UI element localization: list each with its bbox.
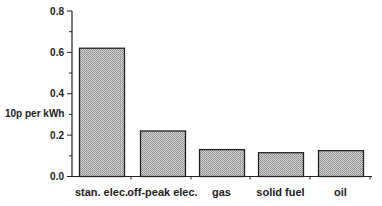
x-tick-label: oil bbox=[334, 186, 347, 198]
y-tick-label: 0.0 bbox=[50, 171, 64, 182]
bar-stan-elec- bbox=[80, 48, 125, 176]
y-tick-label: 0.8 bbox=[50, 6, 64, 17]
x-tick-label: gas bbox=[212, 186, 231, 198]
x-tick-label: stan. elec. bbox=[75, 186, 128, 198]
bar-oil bbox=[319, 151, 364, 177]
y-tick-label: 0.4 bbox=[50, 88, 64, 99]
y-tick-label: 0.2 bbox=[50, 130, 64, 141]
bar-chart: stan. elec.off-peak elec.gassolid fueloi… bbox=[0, 0, 382, 206]
bar-gas bbox=[200, 150, 245, 177]
bar-off-peak-elec- bbox=[141, 131, 186, 177]
x-tick-label: solid fuel bbox=[256, 186, 304, 198]
y-tick-label: 0.6 bbox=[50, 47, 64, 58]
x-tick-label: off-peak elec. bbox=[127, 186, 197, 198]
bar-solid-fuel bbox=[259, 153, 304, 177]
bars-group bbox=[80, 48, 364, 176]
